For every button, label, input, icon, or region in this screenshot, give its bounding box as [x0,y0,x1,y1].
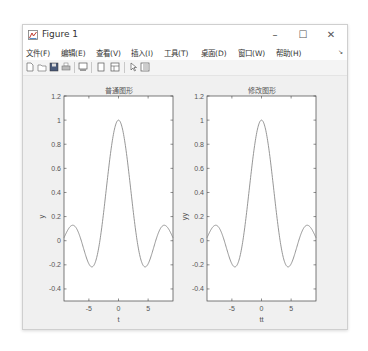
y-tick-label: 1.2 [51,93,61,100]
y-tick-label: -0.2 [49,261,61,268]
open-file-icon[interactable] [37,62,47,72]
y-tick-label: -0.4 [49,285,61,292]
y-tick-label: -0.4 [192,285,204,292]
close-button[interactable]: ✕ [317,26,345,44]
y-tick-label: 1.2 [194,93,204,100]
menu-edit[interactable]: 编辑(E) [61,47,86,58]
minimize-button[interactable]: – [261,26,289,44]
menu-tools[interactable]: 工具(T) [164,47,188,58]
figure-canvas: 1.210.80.60.40.20-0.2-0.4-505普通图形ty1.210… [23,76,347,329]
plots-area: 1.210.80.60.40.20-0.2-0.4-505普通图形ty1.210… [23,76,347,329]
x-tick-label: 0 [117,305,121,312]
menu-window[interactable]: 窗口(W) [238,47,265,58]
y-tick-label: 0.2 [51,213,61,220]
toolbar-separator [124,62,125,73]
axes-title: 修改图形 [248,86,276,95]
axes-box [207,96,316,301]
figure-window: Figure 1 – ☐ ✕ 文件(F) 编辑(E) 查看(V) 插入(I) 工… [22,24,348,330]
x-tick-label: -5 [86,305,92,312]
matlab-figure-icon [28,30,38,40]
toolbar [23,60,347,76]
x-tick-label: 0 [260,305,264,312]
y-tick-label: 0.4 [51,189,61,196]
new-figure-icon[interactable] [25,62,35,72]
y-tick-label: 0.6 [51,165,61,172]
menu-insert[interactable]: 插入(I) [131,47,153,58]
x-axis-label: tt [259,315,264,324]
y-tick-label: 0.8 [51,141,61,148]
hide-plot-tools-icon[interactable] [96,62,106,72]
axes-box [64,96,173,301]
toolbar-separator [91,62,92,73]
y-tick-label: 1 [200,117,204,124]
y-tick-label: 0 [57,237,61,244]
x-tick-label: 5 [146,305,150,312]
toolbar-separator [74,62,75,73]
y-tick-label: 0.8 [194,141,204,148]
menu-desktop[interactable]: 桌面(D) [201,47,227,58]
save-icon[interactable] [49,62,59,72]
x-axis-label: t [117,315,120,324]
axes-2[interactable]: 1.210.80.60.40.20-0.2-0.4-505修改图形ttyy [180,86,316,324]
y-tick-label: 0.4 [194,189,204,196]
menu-help[interactable]: 帮助(H) [276,47,302,58]
y-tick-label: 1 [57,117,61,124]
show-plot-tools-icon[interactable] [110,62,120,72]
y-axis-label: yy [180,213,189,221]
toolbar-overflow-icon[interactable]: ↘ [338,48,343,55]
x-tick-label: -5 [229,305,235,312]
menu-bar: 文件(F) 编辑(E) 查看(V) 插入(I) 工具(T) 桌面(D) 窗口(W… [23,45,347,60]
property-inspector-icon[interactable] [140,62,150,72]
menu-view[interactable]: 查看(V) [96,47,121,58]
menu-file[interactable]: 文件(F) [26,47,50,58]
axes-title: 普通图形 [105,86,133,95]
window-title: Figure 1 [42,29,78,39]
y-tick-label: 0.6 [194,165,204,172]
axes-1[interactable]: 1.210.80.60.40.20-0.2-0.4-505普通图形ty [37,86,173,324]
x-tick-label: 5 [289,305,293,312]
maximize-button[interactable]: ☐ [289,26,317,44]
edit-plot-arrow-icon[interactable] [128,62,138,72]
y-tick-label: -0.2 [192,261,204,268]
y-axis-label: y [37,214,46,218]
title-bar[interactable]: Figure 1 – ☐ ✕ [23,25,347,45]
y-tick-label: 0 [200,237,204,244]
print-icon[interactable] [61,62,71,72]
print-preview-icon[interactable] [78,62,88,72]
y-tick-label: 0.2 [194,213,204,220]
